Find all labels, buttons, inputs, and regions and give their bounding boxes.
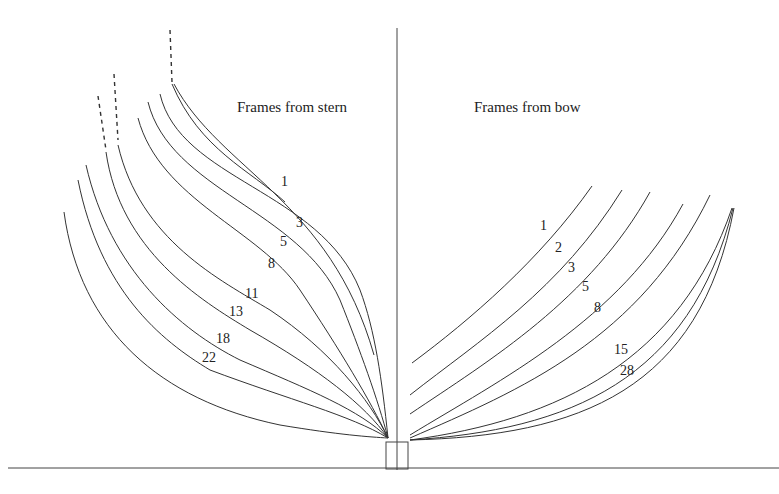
svg-text:5: 5 <box>280 234 287 249</box>
svg-text:1: 1 <box>540 218 547 233</box>
bow-labels: 1 2 3 5 8 15 28 <box>540 218 634 378</box>
svg-text:3: 3 <box>296 215 303 230</box>
stern-labels: 1 3 5 8 11 13 18 22 <box>202 174 303 365</box>
bow-frame-15 <box>410 208 732 440</box>
svg-text:13: 13 <box>229 304 243 319</box>
svg-text:11: 11 <box>245 286 258 301</box>
stern-frame-short <box>174 84 374 355</box>
svg-text:3: 3 <box>568 260 575 275</box>
svg-text:2: 2 <box>555 240 562 255</box>
body-plan-diagram: 1 3 5 8 11 13 18 22 1 2 3 5 8 15 28 Fram… <box>0 0 779 494</box>
svg-text:8: 8 <box>594 300 601 315</box>
bow-frame-8 <box>410 195 710 438</box>
bow-frame-5 <box>410 204 683 435</box>
svg-text:15: 15 <box>614 342 628 357</box>
stern-frame-8 <box>138 118 388 438</box>
svg-text:18: 18 <box>216 331 230 346</box>
bow-title: Frames from bow <box>474 99 581 115</box>
svg-text:8: 8 <box>268 256 275 271</box>
svg-text:28: 28 <box>620 363 634 378</box>
bow-frame-2 <box>410 190 622 395</box>
svg-text:22: 22 <box>202 350 216 365</box>
svg-text:5: 5 <box>582 279 589 294</box>
stern-frames <box>64 30 388 438</box>
bow-frame-outer <box>410 208 734 440</box>
bow-frame-28 <box>410 208 733 440</box>
bow-frames <box>410 186 734 440</box>
stern-title: Frames from stern <box>237 99 347 115</box>
svg-text:1: 1 <box>281 174 288 189</box>
